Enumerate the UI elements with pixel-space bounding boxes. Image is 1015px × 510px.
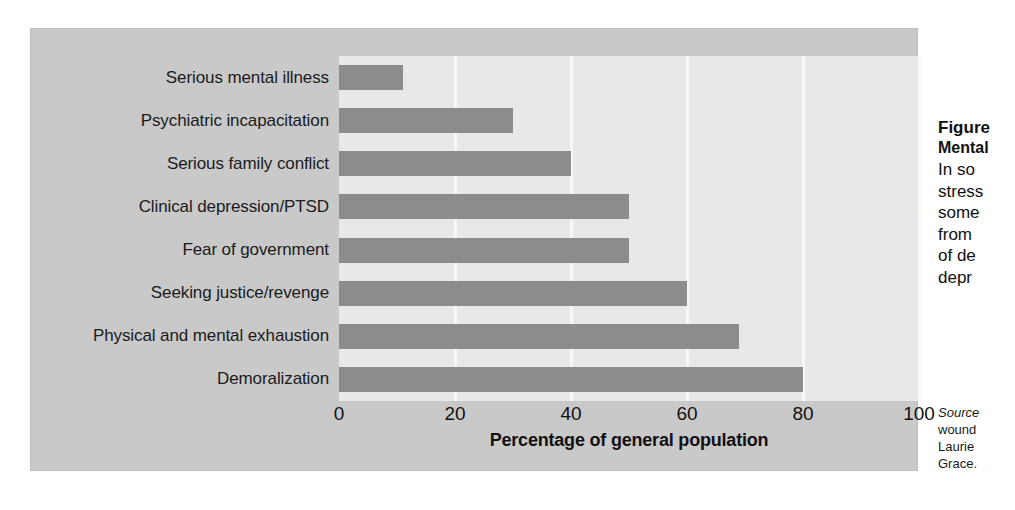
figure-page: Serious mental illnessPsychiatric incapa… — [0, 0, 1015, 510]
caption-line: some — [938, 202, 1015, 224]
source-line: Grace. — [938, 455, 1015, 472]
category-label-row: Seeking justice/revenge — [51, 272, 339, 315]
caption-line: from — [938, 224, 1015, 246]
category-label: Demoralization — [217, 369, 329, 389]
bar-row — [339, 99, 919, 142]
bar — [339, 281, 687, 306]
bar — [339, 108, 513, 133]
bar — [339, 238, 629, 263]
caption-title: Figure — [938, 118, 1015, 138]
bar-row — [339, 358, 919, 401]
category-label: Serious mental illness — [166, 68, 329, 88]
bar-row — [339, 315, 919, 358]
figure-source: SourcewoundLaurieGrace. — [938, 404, 1015, 472]
x-tick-label-20: 20 — [444, 403, 465, 425]
caption-line: stress — [938, 181, 1015, 203]
bar — [339, 65, 403, 90]
bar-row — [339, 56, 919, 99]
category-label-row: Serious mental illness — [51, 56, 339, 99]
category-label-row: Psychiatric incapacitation — [51, 99, 339, 142]
source-line: wound — [938, 421, 1015, 438]
bar — [339, 324, 739, 349]
x-tick-label-40: 40 — [560, 403, 581, 425]
figure-caption: Figure Mental In sostresssomefromof dede… — [938, 118, 1015, 288]
bar — [339, 151, 571, 176]
category-label-row: Fear of government — [51, 229, 339, 272]
caption-subtitle: Mental — [938, 138, 1015, 158]
x-tick-label-80: 80 — [792, 403, 813, 425]
category-label-row: Physical and mental exhaustion — [51, 315, 339, 358]
chart-plot-wrapper: 020406080100 Percentage of general popul… — [339, 56, 919, 426]
category-label: Fear of government — [182, 240, 329, 260]
category-label: Serious family conflict — [167, 154, 329, 174]
bar — [339, 367, 803, 392]
x-axis-title: Percentage of general population — [339, 430, 919, 451]
category-label-row: Serious family conflict — [51, 142, 339, 185]
caption-line: In so — [938, 159, 1015, 181]
x-axis-ticks: 020406080100 — [339, 403, 919, 429]
bar-row — [339, 229, 919, 272]
source-line: Laurie — [938, 438, 1015, 455]
bar-row — [339, 185, 919, 228]
category-label: Clinical depression/PTSD — [139, 197, 329, 217]
page-bottom-margin — [0, 471, 1015, 510]
figure-panel: Serious mental illnessPsychiatric incapa… — [30, 28, 918, 471]
x-tick-label-60: 60 — [676, 403, 697, 425]
x-tick-label-0: 0 — [334, 403, 345, 425]
category-label: Psychiatric incapacitation — [141, 111, 329, 131]
category-label-row: Clinical depression/PTSD — [51, 185, 339, 228]
caption-line: depr — [938, 267, 1015, 289]
category-axis-labels: Serious mental illnessPsychiatric incapa… — [51, 56, 339, 401]
caption-body: In sostresssomefromof dedepr — [938, 159, 1015, 288]
category-label: Physical and mental exhaustion — [93, 326, 329, 346]
bar-row — [339, 272, 919, 315]
category-label-row: Demoralization — [51, 358, 339, 401]
plot-area — [339, 56, 919, 401]
bar-row — [339, 142, 919, 185]
bars-layer — [339, 56, 919, 401]
source-line: Source — [938, 404, 1015, 421]
caption-line: of de — [938, 245, 1015, 267]
category-label: Seeking justice/revenge — [151, 283, 329, 303]
bar — [339, 194, 629, 219]
x-tick-label-100: 100 — [903, 403, 935, 425]
